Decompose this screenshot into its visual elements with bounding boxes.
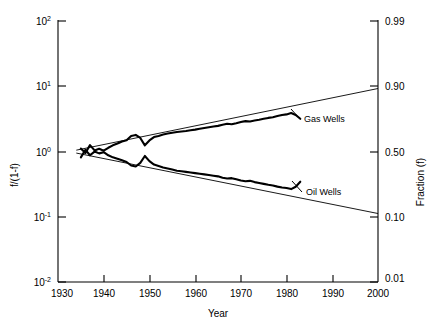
x-tick-label-1930: 1930: [51, 288, 74, 299]
left-tick-label-1em1: 10-1: [34, 211, 51, 223]
x-tick-label-1940: 1940: [93, 288, 116, 299]
chart-figure: 102 101 100 10-1 10-2 f/(1-f) 1930 1940 …: [0, 0, 435, 332]
x-axis-title: Year: [208, 308, 229, 319]
right-axis-title: Fraction (f): [415, 158, 426, 206]
right-tick-label-090: 0.90: [385, 81, 405, 92]
right-tick-label-050: 0.50: [385, 147, 405, 158]
left-tick-label-1e0: 100: [36, 146, 51, 158]
left-axis-title: f/(1-f): [9, 163, 20, 187]
oil-wells-annotation: Oil Wells: [306, 187, 342, 197]
x-tick-label-1950: 1950: [139, 288, 162, 299]
gas-wells-path: [81, 113, 300, 153]
x-tick-label-1990: 1990: [322, 288, 345, 299]
x-tick-label-1960: 1960: [185, 288, 208, 299]
oil-wells-path: [81, 150, 300, 189]
x-tick-label-2000: 2000: [367, 288, 390, 299]
plot-area: 102 101 100 10-1 10-2 f/(1-f) 1930 1940 …: [0, 0, 435, 332]
oil-wells-trend-path: [76, 153, 378, 213]
right-tick-label-099: 0.99: [385, 16, 405, 27]
left-tick-label-1e1: 101: [36, 80, 51, 92]
left-tick-label-1em2: 10-2: [34, 276, 51, 288]
left-tick-label-1e2: 102: [36, 15, 51, 27]
x-tick-label-1970: 1970: [230, 288, 253, 299]
right-tick-label-001: 0.01: [385, 273, 405, 284]
x-tick-label-1980: 1980: [276, 288, 299, 299]
right-tick-label-010: 0.10: [385, 212, 405, 223]
gas-wells-annotation: Gas Wells: [304, 114, 345, 124]
